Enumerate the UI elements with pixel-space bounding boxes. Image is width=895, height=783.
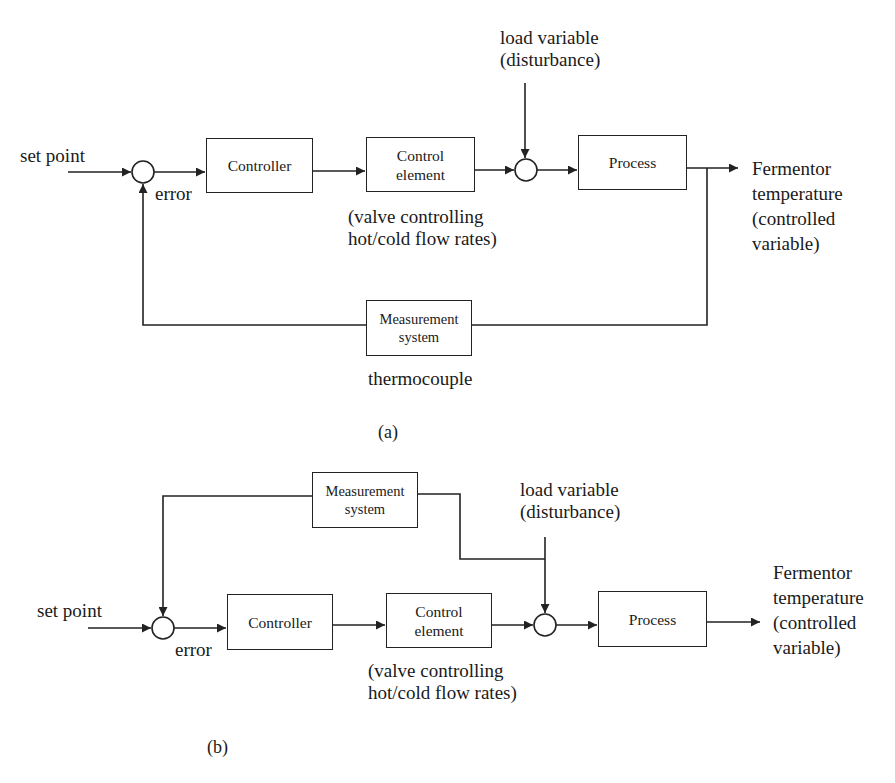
b-control-element-note: (valve controlling hot/cold flow rates) [368, 660, 517, 704]
b-control-element-label-1: Control [414, 602, 463, 621]
a-thermocouple-label: thermocouple [368, 368, 472, 390]
a-feedback-line-left [143, 184, 366, 325]
a-process-label: Process [609, 153, 656, 172]
a-measurement-block: Measurement system [366, 300, 472, 356]
b-control-element-label-2: element [414, 621, 463, 640]
b-load-variable-label: load variable (disturbance) [520, 479, 620, 523]
b-caption: (b) [207, 736, 228, 758]
b-process-label: Process [629, 610, 676, 629]
b-controller-label: Controller [248, 613, 312, 632]
a-output-label: Fermentor temperature (controlled variab… [752, 156, 843, 256]
b-error-label: error [175, 639, 212, 661]
a-measurement-label-1: Measurement [380, 310, 459, 328]
b-set-point-label: set point [37, 600, 102, 622]
b-process-block: Process [598, 591, 707, 647]
a-load-variable-label: load variable (disturbance) [500, 27, 600, 71]
a-control-element-block: Control element [366, 137, 475, 192]
a-error-label: error [155, 183, 192, 205]
b-summing-junction-1 [152, 617, 174, 639]
b-measurement-label-1: Measurement [326, 482, 405, 500]
b-measurement-block: Measurement system [312, 472, 418, 528]
b-measurement-label-2: system [326, 500, 405, 518]
b-summing-junction-2 [534, 614, 556, 636]
a-caption: (a) [378, 421, 398, 443]
a-control-element-note: (valve controlling hot/cold flow rates) [348, 206, 497, 250]
b-output-label: Fermentor temperature (controlled variab… [773, 560, 864, 660]
a-controller-block: Controller [206, 138, 313, 193]
a-set-point-label: set point [20, 145, 85, 167]
a-control-element-label-2: element [396, 165, 445, 184]
a-controller-label: Controller [228, 156, 292, 175]
a-summing-junction-2 [515, 159, 537, 181]
a-summing-junction-1 [132, 161, 154, 183]
a-control-element-label-1: Control [396, 146, 445, 165]
b-control-element-block: Control element [386, 593, 492, 648]
a-process-block: Process [578, 135, 687, 190]
a-feedback-line-right [472, 168, 707, 325]
a-measurement-label-2: system [380, 328, 459, 346]
b-controller-block: Controller [227, 594, 333, 650]
